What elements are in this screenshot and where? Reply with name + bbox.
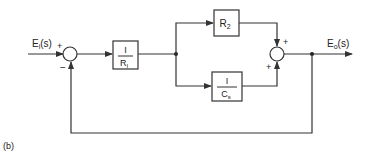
branch-to-cs-line <box>176 54 211 86</box>
sj2-plus-bottom-sign: + <box>266 62 271 72</box>
svg-text:I: I <box>226 76 229 86</box>
sj2-plus-top-sign: + <box>283 37 288 47</box>
block-1-over-r1: I RI <box>113 41 138 69</box>
block-r2: R2 <box>214 10 239 36</box>
output-label: Eo(s) <box>327 38 349 50</box>
branch-to-r2-line <box>176 23 213 54</box>
summing-junction-2 <box>270 47 284 61</box>
input-label: Ei(s) <box>32 38 52 50</box>
svg-text:I: I <box>124 45 127 55</box>
sj1-minus-sign: − <box>60 62 66 73</box>
block-1-over-cs: I Cs <box>212 72 242 101</box>
feedback-line <box>71 54 312 133</box>
cs-to-sj2-line <box>242 62 277 86</box>
summing-junction-1 <box>63 47 77 61</box>
figure-label: (b) <box>3 141 14 151</box>
sj1-plus-sign: + <box>57 41 62 51</box>
r2-to-sj2-line <box>239 23 277 46</box>
